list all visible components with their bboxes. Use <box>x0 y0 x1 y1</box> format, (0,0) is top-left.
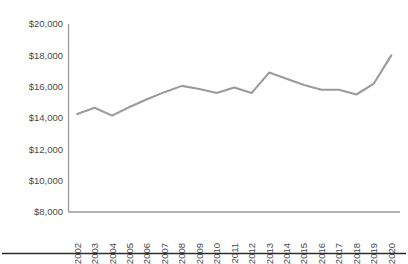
y-axis-tick-label: $16,000 <box>29 81 63 92</box>
line-chart: $20,000$18,000$16,000$14,000$12,000$10,0… <box>0 0 408 264</box>
y-axis-tick-labels: $20,000$18,000$16,000$14,000$12,000$10,0… <box>29 18 63 217</box>
y-axis-tick-label: $18,000 <box>29 50 63 61</box>
data-series-line <box>77 55 391 115</box>
chart-canvas: $20,000$18,000$16,000$14,000$12,000$10,0… <box>0 0 408 264</box>
y-axis-tick-label: $10,000 <box>29 175 63 186</box>
y-axis-tick-label: $14,000 <box>29 112 63 123</box>
y-axis-tick-label: $20,000 <box>29 18 63 29</box>
y-axis-tick-label: $8,000 <box>34 206 63 217</box>
y-axis-tick-label: $12,000 <box>29 144 63 155</box>
